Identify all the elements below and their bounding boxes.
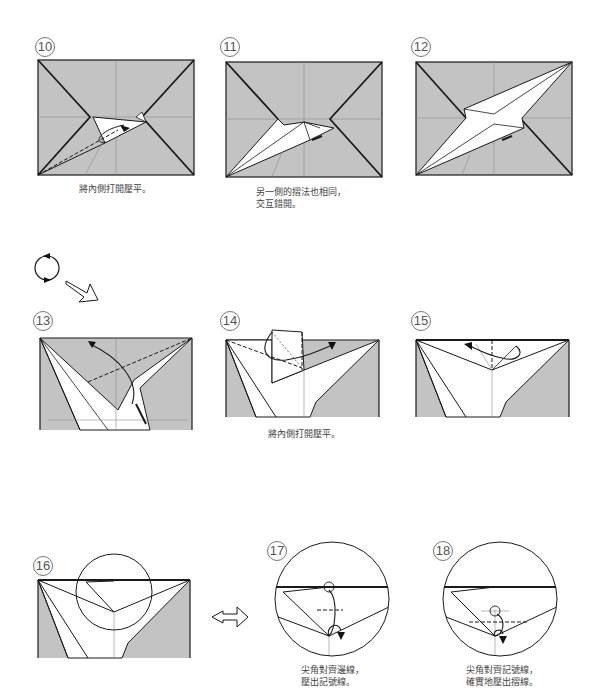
step-10-diagram: [38, 60, 194, 175]
step-18-caption-line-2: 確實地壓出摺線。: [466, 676, 538, 688]
step-11-caption: 另一側的摺法也相同， 交互錯開。: [256, 186, 346, 210]
step-10-caption: 將內側打開壓平。: [79, 183, 151, 195]
step-number-15: 15: [411, 311, 431, 331]
step-16-diagram: [38, 548, 190, 658]
step-17-caption-line-2: 壓出記號線。: [301, 676, 364, 688]
step-17-caption-line-1: 尖角對齊邊線，: [301, 664, 364, 676]
step-number-14: 14: [220, 311, 240, 331]
step-number-13: 13: [33, 311, 53, 331]
step-18-caption-line-1: 尖角對齊記號線，: [466, 664, 538, 676]
step-15-diagram: [416, 340, 569, 417]
step-number-10: 10: [35, 37, 55, 57]
step-11-diagram: [226, 62, 382, 177]
step-14-diagram: [226, 340, 379, 417]
step-17-caption: 尖角對齊邊線， 壓出記號線。: [301, 664, 364, 688]
step-17-diagram: [273, 540, 391, 658]
step-13-diagram: [40, 338, 192, 430]
step-number-11: 11: [220, 37, 240, 57]
step-14-caption: 將內側打開壓平。: [268, 428, 340, 440]
hollow-arrow-icon: [65, 280, 101, 304]
rotate-icon: [33, 253, 63, 283]
step-11-caption-line-1: 另一側的摺法也相同，: [256, 186, 346, 198]
step-number-12: 12: [411, 37, 431, 57]
step-11-caption-line-2: 交互錯開。: [256, 198, 346, 210]
step-18-caption: 尖角對齊記號線， 確實地壓出摺線。: [466, 664, 538, 688]
step-18-diagram: [441, 540, 559, 658]
zoom-arrow-icon: [211, 606, 249, 628]
step-12-diagram: [416, 62, 572, 175]
